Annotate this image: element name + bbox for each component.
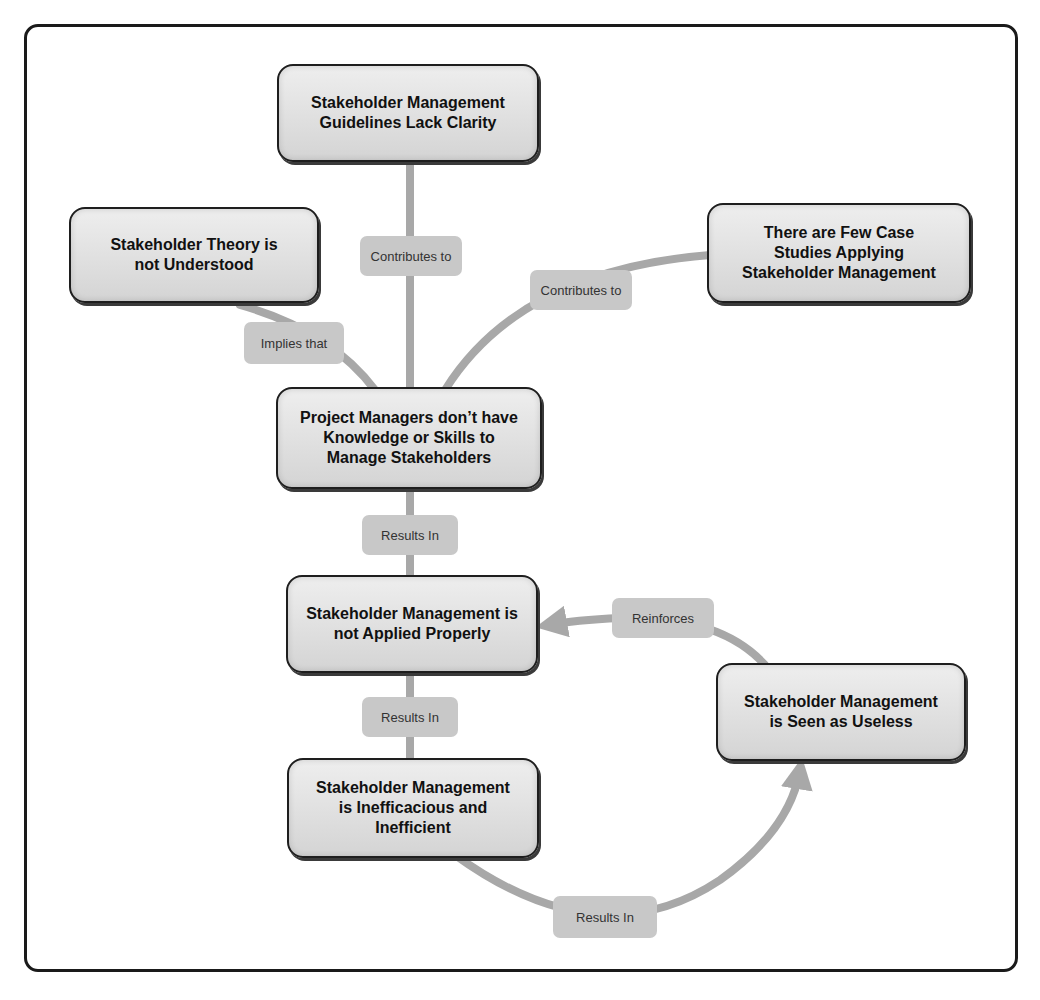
edge-label-contributes-to-2: Contributes to <box>530 270 632 310</box>
edge-label-results-in-2: Results In <box>362 697 458 737</box>
node-not-applied-properly[interactable]: Stakeholder Management is not Applied Pr… <box>286 575 538 673</box>
edge-label-results-in-3: Results In <box>553 896 657 938</box>
edge-label-contributes-to-1: Contributes to <box>360 236 462 276</box>
edge-label-reinforces: Reinforces <box>612 598 714 638</box>
node-inefficacious-inefficient[interactable]: Stakeholder Management is Inefficacious … <box>287 758 539 858</box>
node-guidelines-lack-clarity[interactable]: Stakeholder Management Guidelines Lack C… <box>277 64 539 162</box>
edge-label-results-in-1: Results In <box>362 515 458 555</box>
node-pm-lack-skills[interactable]: Project Managers don’t have Knowledge or… <box>276 387 542 489</box>
node-few-case-studies[interactable]: There are Few Case Studies Applying Stak… <box>707 203 971 303</box>
node-theory-not-understood[interactable]: Stakeholder Theory is not Understood <box>69 207 319 303</box>
node-seen-as-useless[interactable]: Stakeholder Management is Seen as Useles… <box>716 663 966 761</box>
edge-label-implies-that: Implies that <box>244 322 344 364</box>
